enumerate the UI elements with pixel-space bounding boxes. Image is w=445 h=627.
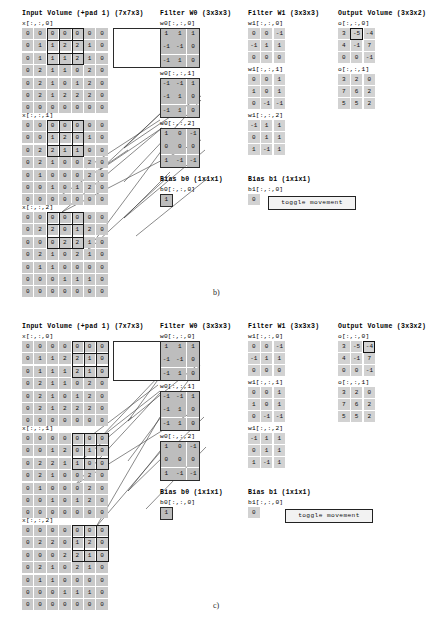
input-2-cell: 0	[96, 224, 107, 235]
w1-0-cell: 0	[261, 52, 273, 63]
input-0-cell: 2	[34, 403, 45, 414]
output-0-cell: -1	[364, 52, 376, 63]
toggle-movement-button[interactable]: toggle movement	[268, 196, 356, 210]
input-0-cell: 0	[34, 28, 45, 39]
input-0-cell: 2	[34, 78, 45, 89]
input-2-cell: 0	[22, 262, 33, 273]
w1-0-cell: 1	[261, 40, 273, 51]
input-2-cell: 0	[59, 575, 70, 586]
w0-2-cell: 0	[173, 128, 186, 141]
input-1-cell: 0	[96, 470, 107, 481]
input-2-cell: 0	[72, 212, 83, 223]
input-slice-1-label: x[:,:,1]	[22, 112, 53, 119]
input-1-cell: 0	[22, 157, 33, 168]
input-0-cell: 1	[47, 65, 58, 76]
input-2-cell: 0	[96, 587, 107, 598]
output-0-cell: 0	[351, 365, 363, 376]
input-0-cell: 2	[34, 391, 45, 402]
filter-w0-header: Filter W0 (3x3x3)	[160, 10, 231, 17]
input-0-cell: 0	[22, 78, 33, 89]
panel-b-caption: b)	[213, 288, 220, 297]
input-2-cell: 0	[59, 262, 70, 273]
w0-0-cell: 1	[160, 341, 173, 354]
input-1-cell: 1	[59, 145, 70, 156]
input-0-cell: 1	[84, 353, 95, 364]
w0-0-cell: -1	[160, 354, 173, 367]
input-1-cell: 0	[96, 433, 107, 444]
input-1-cell: 0	[59, 120, 70, 131]
input-2-cell: 1	[59, 587, 70, 598]
w0-1-cell: 1	[187, 391, 200, 404]
input-0-cell: 0	[22, 378, 33, 389]
input-1-cell: 0	[22, 445, 33, 456]
b1-label: b1[:,:,0]	[248, 499, 283, 506]
input-1-cell: 1	[72, 495, 83, 506]
w0-0-cell: 0	[187, 41, 200, 54]
input-0-cell: 0	[72, 415, 83, 426]
input-2-cell: 0	[96, 575, 107, 586]
w0-1-cell: -1	[160, 78, 173, 91]
input-0-cell: 2	[72, 40, 83, 51]
input-2-cell: 0	[47, 587, 58, 598]
output-1-cell: 0	[364, 387, 376, 398]
input-0-cell: 1	[34, 366, 45, 377]
input-2-cell: 2	[72, 249, 83, 260]
input-2-cell: 1	[47, 562, 58, 573]
input-0-cell: 2	[72, 90, 83, 101]
input-slice-0-label: x[:,:,0]	[22, 20, 53, 27]
input-1-cell: 0	[84, 458, 95, 469]
input-1-cell: 0	[59, 433, 70, 444]
input-2-cell: 0	[34, 550, 45, 561]
output-0-cell: -4	[364, 28, 376, 39]
input-0-cell: 2	[84, 403, 95, 414]
w1-2-cell: -1	[261, 457, 273, 468]
w1-1-cell: 0	[248, 74, 260, 85]
w1-0-cell: -1	[248, 40, 260, 51]
input-1-cell: 0	[72, 120, 83, 131]
b1-grid: 0	[248, 194, 261, 206]
w0-slice-1-grid: -1-11-110-110	[160, 78, 200, 118]
input-2-cell: 0	[84, 575, 95, 586]
output-0-cell: 4	[338, 353, 350, 364]
callout-rectangle	[113, 341, 161, 381]
w1-1-cell: 1	[274, 387, 286, 398]
output-0-cell: 7	[364, 353, 376, 364]
input-0-cell: 1	[47, 403, 58, 414]
w0-1-cell: 1	[187, 78, 200, 91]
input-1-cell: 0	[72, 157, 83, 168]
input-2-cell: 1	[72, 224, 83, 235]
w1-0-cell: 0	[274, 52, 286, 63]
w1-slice-2-grid: -1110111-11	[248, 120, 286, 157]
input-0-cell: 1	[34, 40, 45, 51]
toggle-movement-button[interactable]: toggle movement	[285, 509, 373, 523]
w0-2-cell: 1	[160, 155, 173, 168]
output-slice-1-grid: 320762552	[338, 74, 376, 111]
input-0-cell: 0	[72, 378, 83, 389]
w0-2-cell: 0	[173, 441, 186, 454]
input-1-cell: 0	[96, 157, 107, 168]
w0-slice-2-label: w0[:,:,2]	[160, 433, 195, 440]
input-1-cell: 0	[34, 433, 45, 444]
bias-b1-cell: 0	[248, 194, 260, 205]
input-0-cell: 2	[84, 90, 95, 101]
input-2-cell: 0	[96, 286, 107, 297]
output-1-cell: 2	[364, 86, 376, 97]
bias-b0-cell: 1	[160, 507, 173, 520]
w1-1-cell: 1	[274, 399, 286, 410]
input-0-cell: 0	[96, 53, 107, 64]
input-1-cell: 0	[47, 170, 58, 181]
output-1-cell: 2	[364, 98, 376, 109]
w1-0-cell: 0	[248, 52, 260, 63]
w1-0-cell: 1	[274, 40, 286, 51]
w0-slice-1-grid: -1-11-110-110	[160, 391, 200, 431]
input-2-cell: 0	[22, 237, 33, 248]
w0-2-cell: 1	[160, 128, 173, 141]
input-2-cell: 2	[72, 562, 83, 573]
input-2-cell: 0	[96, 599, 107, 610]
output-1-cell: 2	[351, 74, 363, 85]
w1-2-cell: 1	[248, 457, 260, 468]
w0-0-cell: 0	[187, 354, 200, 367]
output-0-cell: 4	[338, 40, 350, 51]
w1-slice-1-label: w1[:,:,1]	[248, 379, 283, 386]
input-2-cell: 2	[72, 550, 83, 561]
